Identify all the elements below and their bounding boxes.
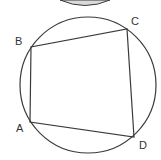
- quadrilateral-abcd: [30, 29, 134, 137]
- top-cropped-shape: [60, 0, 110, 6]
- label-a: A: [16, 122, 24, 134]
- label-c: C: [131, 15, 139, 27]
- cyclic-quadrilateral-diagram: A B C D: [0, 0, 161, 160]
- circumcircle: [20, 17, 156, 153]
- label-b: B: [15, 35, 22, 47]
- label-d: D: [139, 139, 147, 151]
